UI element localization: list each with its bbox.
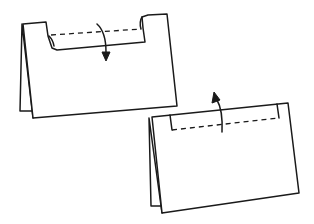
arrow-up-icon bbox=[212, 92, 220, 103]
card-1-fold-line bbox=[51, 29, 141, 35]
card-2-front-face bbox=[152, 103, 299, 213]
diagram-svg bbox=[0, 0, 314, 224]
card-1-right-tab-curl bbox=[140, 17, 142, 29]
card-step-2 bbox=[149, 92, 299, 213]
card-step-1 bbox=[20, 14, 177, 118]
folding-diagram bbox=[0, 0, 314, 224]
card-1-front-face bbox=[23, 14, 177, 118]
